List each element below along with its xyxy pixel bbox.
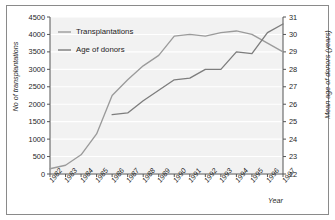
y-right-tick-label: 25	[289, 117, 307, 126]
y-left-tick-label: 4000	[12, 30, 45, 39]
y-right-tick-label: 23	[289, 152, 307, 161]
y-left-tick-label: 1000	[12, 135, 45, 144]
y-left-tick-label: 2500	[12, 82, 45, 91]
y-left-tick-label: 500	[12, 152, 45, 161]
chart-plot-area	[0, 0, 335, 220]
y-right-tick-label: 30	[289, 30, 307, 39]
y-right-tick-label: 28	[289, 65, 307, 74]
y-left-tick-label: 0	[12, 170, 45, 179]
legend-item-label: Age of donors	[76, 45, 125, 54]
x-axis-title: Year	[268, 196, 283, 205]
y-left-tick-label: 4500	[12, 13, 45, 22]
y-left-tick-label: 2000	[12, 100, 45, 109]
chart-figure: No of transplantations Mean age of donor…	[0, 0, 335, 220]
y-left-tick-label: 3000	[12, 65, 45, 74]
y-right-tick-label: 27	[289, 82, 307, 91]
y-right-tick-label: 26	[289, 100, 307, 109]
y-right-tick-label: 24	[289, 135, 307, 144]
y-right-tick-label: 29	[289, 47, 307, 56]
y-axis-right-title: Mean age of donors (years)	[323, 10, 332, 140]
y-left-tick-label: 3500	[12, 47, 45, 56]
legend-item-label: Transplantations	[76, 27, 133, 36]
y-left-tick-label: 1500	[12, 117, 45, 126]
y-right-tick-label: 31	[289, 13, 307, 22]
